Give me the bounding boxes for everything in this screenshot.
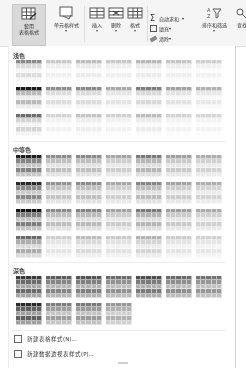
fill-button[interactable]: 填充 ▾ <box>150 24 171 33</box>
section-label-light: 浅色 <box>13 51 25 60</box>
new-pivot-style-menu-item[interactable]: 新建数据透视表样式(P)... <box>14 348 94 360</box>
table-style-medium-14[interactable] <box>196 182 222 204</box>
chevron-down-icon: ▾ <box>134 28 136 33</box>
table-style-light-14[interactable] <box>196 87 222 109</box>
table-style-medium-11[interactable] <box>106 182 132 204</box>
table-style-medium-10[interactable] <box>76 182 102 204</box>
sigma-icon: Σ <box>150 15 157 22</box>
table-style-dark-9[interactable] <box>46 303 72 325</box>
table-style-light-20[interactable] <box>166 114 192 136</box>
format-button[interactable]: 格式 ▾ <box>126 4 144 44</box>
delete-button[interactable]: 删除 ▾ <box>107 4 125 44</box>
table-style-medium-20[interactable] <box>166 209 192 231</box>
chevron-down-icon: ▾ <box>115 28 117 33</box>
table-style-medium-23[interactable] <box>46 236 72 258</box>
table-style-medium-18[interactable] <box>106 209 132 231</box>
table-style-medium-8[interactable] <box>16 182 42 204</box>
table-style-medium-21[interactable] <box>196 209 222 231</box>
table-style-medium-9[interactable] <box>46 182 72 204</box>
section-divider <box>12 141 226 142</box>
dark-styles-grid <box>16 276 222 325</box>
ribbon-separator <box>147 6 148 42</box>
section-divider <box>12 262 226 263</box>
table-style-dark-6[interactable] <box>166 276 192 298</box>
table-style-dark-3[interactable] <box>76 276 102 298</box>
delete-cells-icon <box>108 6 124 20</box>
find-button[interactable]: 查找 <box>234 4 246 44</box>
find-label: 查找 <box>237 22 246 28</box>
table-style-dark-2[interactable] <box>46 276 72 298</box>
format-as-table-label: 套用 表格格式 <box>19 23 39 35</box>
autosum-button[interactable]: Σ 自动求和 ▾ <box>150 14 184 23</box>
table-style-light-1[interactable] <box>16 60 42 82</box>
chevron-down-icon: ▾ <box>182 16 184 21</box>
chevron-down-icon: ▾ <box>96 28 98 33</box>
chevron-down-icon: ▾ <box>213 28 215 33</box>
table-style-light-4[interactable] <box>106 60 132 82</box>
sort-filter-button[interactable]: AZ 排序和筛选 ▾ <box>196 4 232 44</box>
table-style-light-12[interactable] <box>136 87 162 109</box>
section-label-dark: 深色 <box>13 266 25 275</box>
table-style-light-6[interactable] <box>166 60 192 82</box>
table-style-dark-11[interactable] <box>106 303 132 325</box>
insert-button[interactable]: 插入 ▾ <box>88 4 106 44</box>
clear-button[interactable]: 清除 ▾ <box>150 34 171 43</box>
medium-styles-grid <box>16 155 222 258</box>
cell-styles-button[interactable]: 单元格样式 ▾ <box>48 4 84 44</box>
table-style-light-7[interactable] <box>196 60 222 82</box>
table-style-light-15[interactable] <box>16 114 42 136</box>
resize-handle[interactable] <box>118 362 128 364</box>
table-style-medium-19[interactable] <box>136 209 162 231</box>
chevron-down-icon: ▾ <box>169 36 171 41</box>
table-style-icon <box>21 7 37 21</box>
table-style-medium-25[interactable] <box>106 236 132 258</box>
table-style-dark-7[interactable] <box>196 276 222 298</box>
new-pivot-style-icon <box>14 350 22 358</box>
table-style-medium-13[interactable] <box>166 182 192 204</box>
table-style-light-16[interactable] <box>46 114 72 136</box>
table-style-dark-4[interactable] <box>106 276 132 298</box>
table-style-medium-28[interactable] <box>196 236 222 258</box>
table-style-light-11[interactable] <box>106 87 132 109</box>
table-style-light-21[interactable] <box>196 114 222 136</box>
table-style-medium-15[interactable] <box>16 209 42 231</box>
table-style-medium-16[interactable] <box>46 209 72 231</box>
sort-filter-icon: AZ <box>206 6 222 20</box>
table-style-dark-1[interactable] <box>16 276 42 298</box>
table-style-light-2[interactable] <box>46 60 72 82</box>
table-style-light-10[interactable] <box>76 87 102 109</box>
table-style-light-13[interactable] <box>166 87 192 109</box>
section-label-medium: 中等色 <box>13 145 31 154</box>
section-divider <box>12 330 226 331</box>
table-style-medium-2[interactable] <box>46 155 72 177</box>
chevron-down-icon: ▾ <box>169 26 171 31</box>
table-style-medium-6[interactable] <box>166 155 192 177</box>
table-style-dark-8[interactable] <box>16 303 42 325</box>
find-icon <box>234 6 246 20</box>
autosum-label: 自动求和 <box>159 15 179 22</box>
table-style-dark-5[interactable] <box>136 276 162 298</box>
table-style-light-5[interactable] <box>136 60 162 82</box>
table-style-medium-24[interactable] <box>76 236 102 258</box>
table-style-light-18[interactable] <box>106 114 132 136</box>
table-style-medium-7[interactable] <box>196 155 222 177</box>
table-style-medium-17[interactable] <box>76 209 102 231</box>
table-style-light-19[interactable] <box>136 114 162 136</box>
table-style-medium-1[interactable] <box>16 155 42 177</box>
table-style-medium-3[interactable] <box>76 155 102 177</box>
table-style-medium-4[interactable] <box>106 155 132 177</box>
table-style-medium-22[interactable] <box>16 236 42 258</box>
table-style-medium-27[interactable] <box>166 236 192 258</box>
table-style-light-8[interactable] <box>16 87 42 109</box>
table-style-medium-12[interactable] <box>136 182 162 204</box>
cell-styles-icon <box>58 6 74 20</box>
format-as-table-button[interactable]: 套用 表格格式 <box>12 4 46 46</box>
table-style-light-9[interactable] <box>46 87 72 109</box>
new-table-style-menu-item[interactable]: 新建表格样式(N)... <box>14 333 77 345</box>
table-style-light-3[interactable] <box>76 60 102 82</box>
table-style-light-17[interactable] <box>76 114 102 136</box>
table-style-medium-26[interactable] <box>136 236 162 258</box>
table-style-dark-10[interactable] <box>76 303 102 325</box>
chevron-down-icon: ▾ <box>65 28 67 33</box>
table-style-medium-5[interactable] <box>136 155 162 177</box>
